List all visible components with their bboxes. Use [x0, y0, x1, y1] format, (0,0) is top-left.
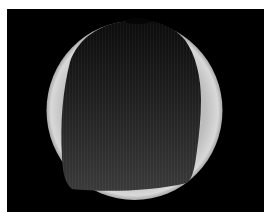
top-gap — [125, 18, 151, 24]
texture-overlay — [61, 21, 201, 191]
circular-view — [0, 0, 277, 224]
